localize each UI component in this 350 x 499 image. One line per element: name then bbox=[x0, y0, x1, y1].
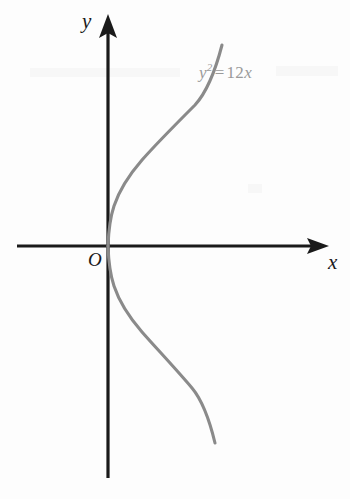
equation-variable: y bbox=[199, 63, 207, 82]
y-axis-label: y bbox=[82, 11, 91, 32]
parabola-lower-branch bbox=[108, 246, 215, 443]
x-axis-label: x bbox=[328, 252, 337, 273]
origin-label: O bbox=[88, 250, 102, 269]
equation-operator: = bbox=[213, 63, 227, 82]
equation-coefficient: 12 bbox=[227, 63, 245, 82]
equation-term: x bbox=[244, 63, 252, 82]
parabola-figure: y x O y2=12x bbox=[0, 0, 350, 499]
coordinate-plane-svg bbox=[0, 0, 350, 499]
curve-equation-label: y2=12x bbox=[199, 62, 252, 81]
equation-exponent: 2 bbox=[207, 61, 213, 73]
